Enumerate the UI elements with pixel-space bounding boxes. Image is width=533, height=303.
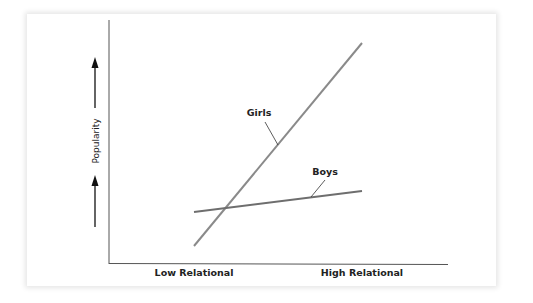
arrow-up-icon [92,57,99,108]
boys-label: Boys [312,166,338,177]
boys-line [194,191,362,212]
girls-label: Girls [247,107,272,118]
y-axis-label: Popularity [91,118,101,164]
boys-leader-line [311,180,325,197]
x-axis [109,264,448,265]
arrow-up-icon [92,175,99,227]
x-tick-high: High Relational [321,267,403,278]
x-tick-low: Low Relational [155,267,234,278]
interaction-chart: Popularity Girls Boys Low Relational Hig… [0,0,533,303]
girls-leader-line [265,122,278,145]
